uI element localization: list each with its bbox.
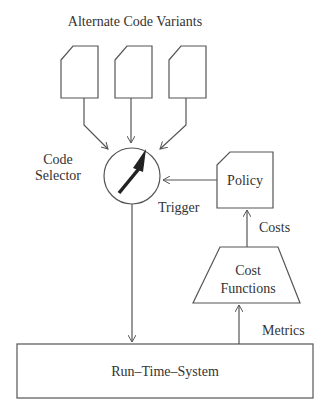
code-selector-label-1: Code [28, 152, 88, 168]
runtime-system-label: Run–Time–System [17, 364, 313, 380]
cost-functions-label-2: Functions [210, 281, 286, 297]
policy-label: Policy [217, 173, 273, 189]
code-variant-doc-1 [61, 46, 98, 98]
code-selector-label-2: Selector [28, 168, 88, 184]
selector-needle-icon [119, 149, 146, 193]
trigger-label: Trigger [158, 200, 200, 216]
cost-functions-label-1: Cost [210, 263, 286, 279]
code-variant-doc-2 [115, 46, 152, 98]
diagram-title: Alternate Code Variants [60, 14, 210, 30]
costs-label: Costs [259, 220, 290, 236]
metrics-label: Metrics [262, 323, 305, 339]
code-variant-doc-3 [169, 46, 206, 98]
